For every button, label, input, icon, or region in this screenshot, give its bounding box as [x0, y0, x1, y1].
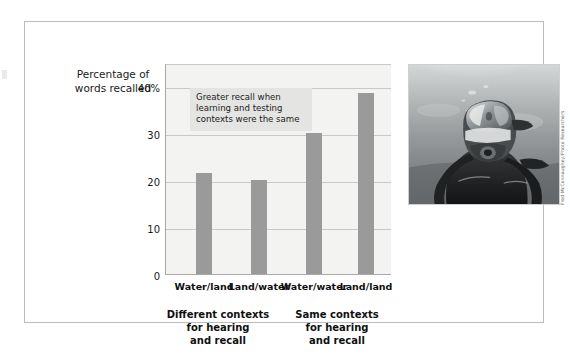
chart-annotation: Greater recall when learning and testing…: [190, 88, 312, 131]
bar: [306, 133, 322, 274]
x-axis-tick-label: Land/land: [340, 281, 393, 292]
y-axis-tick-label: 40%: [138, 83, 160, 94]
page-edge-artifact: [2, 70, 7, 79]
photo-credit: Fred McConnaughey/Photo Researchers: [560, 110, 565, 205]
bar: [358, 93, 374, 274]
figure-frame: Percentage of words recalled 010203040% …: [24, 21, 544, 323]
y-axis-tick-label: 20: [147, 177, 160, 188]
bar: [251, 180, 267, 274]
bar: [196, 173, 212, 274]
y-axis-tick-label: 0: [154, 271, 160, 282]
scuba-diver-photo: [408, 64, 560, 205]
photo-figure: Fred McConnaughey/Photo Researchers: [408, 64, 560, 205]
bar-chart: 010203040% Water/landLand/waterWater/wat…: [165, 64, 391, 275]
plot-area: 010203040% Water/landLand/waterWater/wat…: [165, 64, 391, 275]
x-axis-tick-label: Water/water: [281, 281, 348, 292]
x-axis-tick-label: Water/land: [175, 281, 234, 292]
y-axis-tick-label: 30: [147, 130, 160, 141]
group-caption-same-contexts: Same contexts for hearing and recall: [281, 308, 393, 347]
x-axis-line: [166, 274, 391, 276]
group-caption-different-contexts: Different contexts for hearing and recal…: [161, 308, 275, 347]
y-axis-tick-label: 10: [147, 224, 160, 235]
